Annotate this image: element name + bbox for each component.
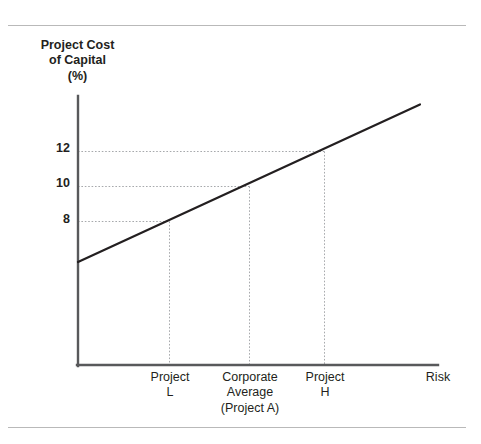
y-axis-title-line-1: Project Cost [0,38,155,53]
x-tick-corporate-average-line-3: (Project A) [190,401,310,416]
y-tick-label-10: 10 [36,176,70,191]
y-tick-label-12: 12 [36,141,70,156]
x-tick-project-h-line-1: Project [265,370,385,385]
x-axis-title-risk: Risk [403,370,473,385]
y-axis-title: Project Cost of Capital (%) [0,38,155,84]
x-tick-project-h-line-2: H [265,385,385,400]
y-axis-title-line-3: (%) [0,69,155,84]
x-tick-label-project-h: Project H [265,370,385,401]
y-tick-label-8: 8 [36,212,70,227]
figure-container: Project Cost of Capital (%) 12 10 8 Proj… [0,0,481,444]
y-axis-title-line-2: of Capital [0,53,155,68]
horizontal-guide-lines [78,152,325,222]
